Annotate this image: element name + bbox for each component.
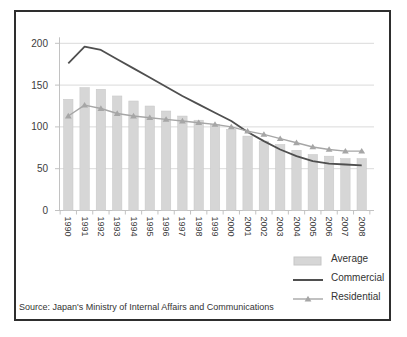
commercial-line-swatch-icon [293,272,323,284]
svg-text:2001: 2001 [243,217,253,237]
svg-text:1997: 1997 [177,217,187,237]
svg-text:2006: 2006 [324,217,334,237]
svg-text:50: 50 [37,163,49,174]
source-note: Source: Japan's Ministry of Internal Aff… [19,302,349,312]
legend-label-average: Average [331,253,368,265]
figure: 0501001502001990199119921993199419951996… [0,0,407,337]
svg-text:2007: 2007 [340,217,350,237]
svg-text:2005: 2005 [308,217,318,237]
svg-text:1999: 1999 [210,217,220,237]
svg-text:1994: 1994 [129,217,139,237]
legend: Average Commercial Residential [293,252,384,303]
legend-item-average: Average [293,252,384,265]
svg-text:1998: 1998 [194,217,204,237]
svg-text:0: 0 [42,205,48,216]
svg-text:2000: 2000 [226,217,236,237]
svg-text:1991: 1991 [80,217,90,237]
svg-text:2003: 2003 [275,217,285,237]
residential-line-swatch-icon [293,291,323,303]
svg-text:2004: 2004 [292,217,302,237]
legend-label-commercial: Commercial [331,272,384,284]
svg-text:1992: 1992 [96,217,106,237]
svg-text:1990: 1990 [63,217,73,237]
svg-text:2008: 2008 [357,217,367,237]
svg-text:200: 200 [31,38,48,49]
legend-label-residential: Residential [331,291,380,303]
svg-text:1993: 1993 [112,217,122,237]
average-bar-swatch-icon [293,253,323,265]
svg-text:1996: 1996 [161,217,171,237]
legend-item-commercial: Commercial [293,271,384,284]
svg-text:2002: 2002 [259,217,269,237]
svg-text:1995: 1995 [145,217,155,237]
svg-text:150: 150 [31,80,48,91]
svg-text:100: 100 [31,121,48,132]
